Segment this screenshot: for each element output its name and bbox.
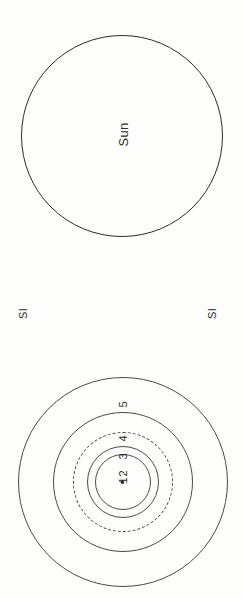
si-label-right: SI bbox=[207, 301, 218, 327]
ring-label-1: 1 bbox=[117, 470, 128, 492]
ring-label-5: 5 bbox=[117, 394, 128, 416]
scale-label-band: SI SI bbox=[0, 262, 245, 360]
figure-root: Sun SI SI 5 4 3 2 1 bbox=[0, 0, 245, 598]
sun-circle-label: Sun bbox=[116, 115, 129, 155]
concentric-rings-panel: 5 4 3 2 1 bbox=[0, 360, 245, 598]
sun-diagram-panel: Sun bbox=[0, 0, 245, 262]
si-label-left: SI bbox=[18, 301, 29, 327]
